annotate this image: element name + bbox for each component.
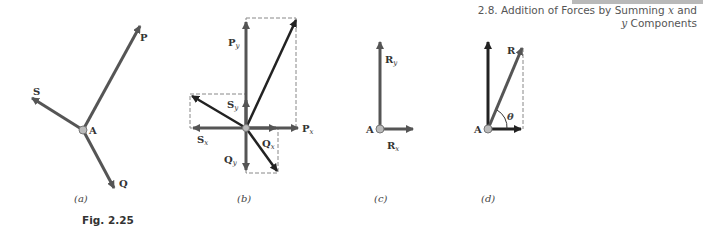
- svg-text:Qx: Qx: [262, 138, 275, 151]
- svg-text:A: A: [473, 124, 482, 135]
- vector-p: [83, 26, 140, 130]
- vector-q: [83, 130, 114, 188]
- figure-label: Fig. 2.25: [82, 214, 134, 226]
- point-c: [376, 125, 384, 133]
- svg-text:Rx: Rx: [387, 140, 399, 153]
- caption-b: (b): [237, 193, 251, 204]
- panel-c: Ry A Rx (c): [365, 42, 413, 204]
- svg-text:θ: θ: [507, 111, 514, 122]
- caption-d: (d): [481, 193, 495, 204]
- svg-text:R: R: [507, 45, 516, 56]
- svg-text:Sy: Sy: [227, 99, 239, 112]
- caption-c: (c): [374, 193, 388, 204]
- panel-b: Py Px Sy Sx Qx Qy (b): [190, 18, 314, 204]
- point-b: [243, 125, 250, 132]
- label-q: Q: [119, 178, 128, 189]
- vector-r: [488, 48, 522, 129]
- force-diagram: P S A Q (a) Py Px Sy Sx Qx Qy (b) Ry A R…: [0, 0, 703, 234]
- svg-text:Sx: Sx: [197, 134, 208, 147]
- caption-a: (a): [74, 193, 88, 204]
- vector-s: [192, 96, 246, 128]
- svg-text:Px: Px: [302, 123, 314, 136]
- vector-p: [246, 20, 296, 128]
- point-a: [79, 126, 87, 134]
- svg-text:A: A: [365, 124, 374, 135]
- label-s: S: [33, 86, 40, 97]
- panel-a: P S A Q (a): [32, 26, 148, 204]
- point-d: [484, 125, 492, 133]
- svg-text:Qy: Qy: [224, 154, 238, 167]
- vector-s: [32, 98, 83, 130]
- label-p: P: [140, 32, 148, 43]
- panel-d: R A θ (d): [473, 42, 523, 204]
- label-a: A: [88, 125, 97, 136]
- angle-arc: [497, 110, 507, 129]
- svg-text:Py: Py: [228, 37, 241, 50]
- svg-text:Ry: Ry: [385, 54, 398, 67]
